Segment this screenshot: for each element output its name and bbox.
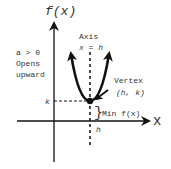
y-axis-label: f(x) [45, 4, 76, 19]
parabola-left-arm [71, 54, 90, 101]
vertex-point [87, 98, 93, 104]
condition-line-2: Opens [16, 59, 40, 68]
parabola-diagram: f(x) x Axis x = h a > 0 Opens upward Ver… [0, 0, 171, 169]
k-label: k [45, 97, 50, 106]
vertex-coords: (h, k) [116, 88, 145, 97]
axis-equation: x = h [78, 43, 103, 52]
condition-line-3: upward [16, 70, 45, 79]
parabola-right-arm [90, 54, 109, 101]
h-label: h [96, 125, 101, 134]
x-axis-label: x [153, 113, 161, 129]
vertex-title: Vertex [114, 76, 143, 85]
min-label: Min f(x) [102, 109, 140, 118]
condition-line-1: a > 0 [16, 48, 40, 57]
axis-title: Axis [79, 32, 98, 41]
